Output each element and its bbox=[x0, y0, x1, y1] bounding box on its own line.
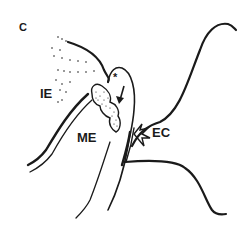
solid-arrow-icon bbox=[116, 86, 124, 104]
diagram-drawing bbox=[0, 0, 246, 230]
label-middle-ear: ME bbox=[77, 131, 97, 144]
canal-wall-line bbox=[108, 68, 135, 210]
label-inner-ear: IE bbox=[40, 87, 52, 100]
inner-ear-stipple bbox=[51, 36, 95, 103]
panel-label: C bbox=[19, 22, 27, 33]
lower-right-curve bbox=[125, 161, 226, 214]
upper-wall-line bbox=[68, 42, 109, 82]
ear-diagram: C * IE ME EC bbox=[0, 0, 246, 230]
ossicles bbox=[92, 84, 121, 132]
asterisk-marker: * bbox=[113, 72, 117, 83]
label-external-canal: EC bbox=[152, 126, 170, 139]
